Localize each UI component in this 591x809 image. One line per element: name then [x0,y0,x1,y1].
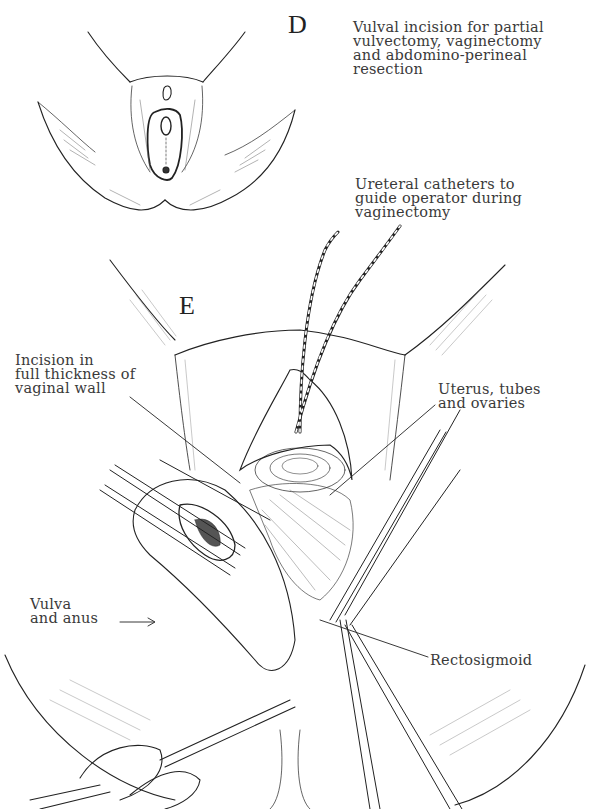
label-ureteral-catheters: Ureteral catheters to guide operator dur… [355,177,522,219]
panel-d-letter: D [288,10,307,40]
label-vulva-and-anus: Vulva and anus [30,597,98,625]
label-rectosigmoid: Rectosigmoid [430,653,532,667]
panel-d-drawing [38,32,295,210]
panel-e-drawing [5,226,585,809]
leader-lines [120,397,435,657]
panel-d-caption: Vulval incision for partial vulvectomy, … [353,20,544,76]
label-uterus-tubes-ovaries: Uterus, tubes and ovaries [438,382,541,410]
label-incision-vaginal-wall: Incision in full thickness of vaginal wa… [15,353,135,395]
surgical-illustration: D Vulval incision for partial vulvectomy… [0,0,591,809]
panel-e-letter: E [179,291,195,321]
